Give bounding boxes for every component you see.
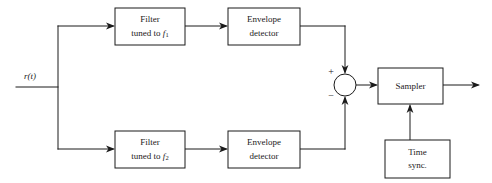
block-sampler-label: Sampler: [396, 81, 426, 91]
block-filter-f2-line1: Filter: [140, 137, 160, 147]
summing-junction[interactable]: + −: [328, 66, 356, 101]
block-filter-f2-line2: tuned to f2: [131, 151, 168, 161]
block-time-sync[interactable]: Time sync.: [385, 140, 450, 178]
block-sampler[interactable]: Sampler: [378, 68, 443, 104]
block-envelope-detector-bottom[interactable]: Envelope detector: [228, 131, 300, 168]
input-signal-label: r(t): [24, 71, 36, 81]
summing-junction-plus-sign: +: [328, 66, 334, 77]
block-time-sync-rect: [385, 140, 450, 178]
block-envelope-detector-bottom-line1: Envelope: [247, 137, 281, 147]
block-envelope-detector-top[interactable]: Envelope detector: [228, 8, 300, 45]
block-filter-f2[interactable]: Filter tuned to f2: [115, 131, 185, 168]
block-filter-f1-line1: Filter: [140, 14, 160, 24]
block-filter-f1-line2: tuned to f1: [131, 28, 168, 38]
block-diagram-canvas: Filter tuned to f1 Envelope detector Fil…: [0, 0, 492, 183]
block-filter-f1[interactable]: Filter tuned to f1: [115, 8, 185, 45]
summing-junction-circle: [334, 74, 356, 96]
block-time-sync-line2: sync.: [408, 160, 427, 170]
block-filter-f1-line2-prefix: tuned to: [131, 28, 163, 38]
block-envelope-detector-top-line2: detector: [250, 28, 279, 38]
block-envelope-detector-top-line1: Envelope: [247, 14, 281, 24]
block-diagram-svg: Filter tuned to f1 Envelope detector Fil…: [0, 0, 492, 183]
summing-junction-minus-sign: −: [328, 90, 334, 101]
block-envelope-detector-bottom-line2: detector: [250, 151, 279, 161]
block-filter-f2-line2-prefix: tuned to: [131, 151, 163, 161]
block-filter-f2-subscript: 2: [165, 154, 168, 161]
block-time-sync-line1: Time: [408, 147, 427, 157]
block-filter-f1-subscript: 1: [165, 31, 168, 38]
